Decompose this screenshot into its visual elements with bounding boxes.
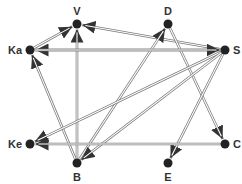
node-dot (26, 46, 35, 55)
edge-line-inner (84, 53, 222, 158)
edge-s-to-e (170, 54, 222, 158)
node-c: C (221, 138, 242, 150)
network-graph: VDKaSKeCBE (0, 0, 242, 183)
node-label: Ke (8, 138, 22, 150)
node-s: S (221, 44, 241, 56)
node-dot (164, 20, 173, 29)
node-label: C (233, 138, 241, 150)
edge-line-inner (172, 54, 223, 155)
node-b: B (73, 159, 82, 184)
edge-s-to-v (82, 25, 220, 49)
node-dot (73, 20, 82, 29)
node-e: E (164, 159, 173, 184)
edge-s-to-ke (35, 52, 221, 142)
edges-layer (32, 25, 223, 160)
node-label: Ka (8, 44, 23, 56)
node-d: D (164, 5, 173, 29)
edge-line-inner (38, 52, 221, 140)
node-v: V (73, 5, 82, 29)
edge-b-to-d (79, 29, 165, 160)
edge-line-inner (34, 28, 70, 48)
node-dot (164, 159, 173, 168)
node-label: D (164, 5, 172, 17)
node-dot (26, 140, 35, 149)
node-ka: Ka (8, 44, 35, 56)
node-dot (221, 46, 230, 55)
node-ke: Ke (8, 138, 35, 150)
node-dot (221, 140, 230, 149)
edge-ka-to-v (34, 27, 72, 48)
node-dot (73, 159, 82, 168)
node-label: E (164, 171, 171, 183)
node-label: V (73, 5, 81, 17)
node-label: S (233, 44, 240, 56)
node-label: B (73, 171, 81, 183)
